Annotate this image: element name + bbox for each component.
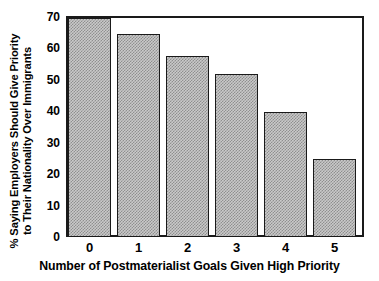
y-tick-label-20: 20 [47, 168, 60, 180]
x-tick-label-2: 2 [184, 240, 191, 256]
bar-2 [166, 56, 209, 237]
x-axis-title: Number of Postmaterialist Goals Given Hi… [0, 259, 379, 273]
x-tick-label-0: 0 [86, 240, 93, 256]
y-tick-label-60: 60 [47, 42, 60, 54]
x-tick-label-1: 1 [135, 240, 142, 256]
bar-4 [264, 112, 307, 237]
x-tick-label-3: 3 [233, 240, 240, 256]
bar-1 [117, 34, 160, 237]
plot-area [68, 18, 362, 237]
y-axis-tick-labels: 0 10 20 30 40 50 60 70 [0, 0, 66, 281]
bar-0 [68, 18, 111, 237]
y-tick-label-10: 10 [47, 200, 60, 212]
bar-3 [215, 74, 258, 237]
y-tick-label-50: 50 [47, 74, 60, 86]
x-axis-tick-labels: 0 1 2 3 4 5 [68, 240, 362, 258]
bar-chart-figure: % Saying Employers Should Give Priority … [0, 0, 379, 281]
y-tick-label-30: 30 [47, 137, 60, 149]
y-tick-label-0: 0 [53, 231, 60, 243]
x-tick-label-4: 4 [282, 240, 289, 256]
bar-5 [313, 159, 356, 237]
y-tick-label-40: 40 [47, 105, 60, 117]
y-tick-label-70: 70 [47, 11, 60, 23]
x-tick-label-5: 5 [331, 240, 338, 256]
